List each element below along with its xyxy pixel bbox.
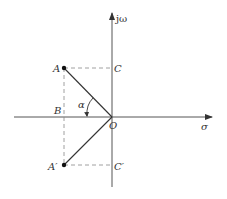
s-plane-diagram: jω σ O A A′ B C C′ α	[0, 0, 227, 199]
vector-o-a-conj	[64, 117, 112, 165]
angle-arc-icon	[87, 98, 93, 116]
imaginary-axis-label: jω	[115, 13, 127, 24]
point-c-conj-label: C′	[114, 161, 125, 172]
angle-alpha-label: α	[78, 99, 85, 110]
point-a-label: A	[52, 63, 60, 74]
point-c-label: C	[114, 63, 122, 74]
vector-o-a	[64, 68, 112, 117]
point-b-label: B	[53, 105, 61, 116]
origin-label: O	[109, 120, 117, 131]
real-axis-label: σ	[201, 121, 209, 132]
point-a-conj	[62, 163, 66, 167]
point-a	[62, 66, 66, 70]
point-a-conj-label: A′	[47, 161, 58, 172]
